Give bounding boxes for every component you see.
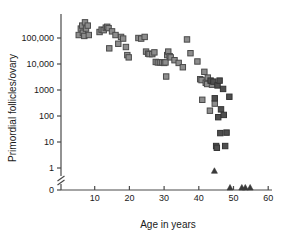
data-point-square xyxy=(188,51,193,56)
chart-figure: 100,00010,00010001001010 102030405060 Pr… xyxy=(0,0,285,233)
data-point-square xyxy=(123,44,128,49)
data-point-square xyxy=(216,114,221,119)
y-tick-label: 1 xyxy=(49,163,54,173)
x-tick-label: 20 xyxy=(124,193,134,203)
data-point-square xyxy=(113,32,118,37)
y-tick-label: 10 xyxy=(44,137,54,147)
data-point-square xyxy=(214,145,219,150)
x-tick-label: 50 xyxy=(228,193,238,203)
data-point-square xyxy=(220,86,225,91)
x-tick-label: 40 xyxy=(194,193,204,203)
data-point-square xyxy=(202,69,207,74)
data-point-square xyxy=(180,65,185,70)
data-point-square xyxy=(152,50,157,55)
data-point-square xyxy=(184,37,189,42)
data-point-square xyxy=(163,60,168,65)
data-point-square xyxy=(86,32,91,37)
data-point-square xyxy=(126,55,131,60)
data-point-square xyxy=(218,130,223,135)
data-point-square xyxy=(195,59,200,64)
y-tick-label: 0 xyxy=(49,185,54,195)
x-axis-title: Age in years xyxy=(140,219,196,230)
y-axis-title: Primordial follicles/ovary xyxy=(7,54,18,162)
y-tick-label: 1000 xyxy=(34,85,54,95)
x-tick-label: 60 xyxy=(263,193,273,203)
x-tick-label: 30 xyxy=(159,193,169,203)
y-tick-label: 100 xyxy=(39,111,54,121)
y-tick-label: 100,000 xyxy=(21,33,54,43)
data-point-square xyxy=(207,108,212,113)
data-point-square xyxy=(142,34,147,39)
data-point-square xyxy=(163,74,168,79)
data-point-square xyxy=(217,78,222,83)
data-point-square xyxy=(200,97,205,102)
data-point-square xyxy=(222,143,227,148)
data-point-square xyxy=(221,112,226,117)
data-point-square xyxy=(107,46,112,51)
data-point-square xyxy=(116,41,121,46)
data-point-square xyxy=(85,23,90,28)
scatter-plot: 100,00010,00010001001010 102030405060 Pr… xyxy=(0,0,285,233)
data-point-square xyxy=(212,96,217,101)
x-tick-label: 10 xyxy=(90,193,100,203)
data-point-square xyxy=(212,101,217,106)
data-point-square xyxy=(224,130,229,135)
data-point-square xyxy=(218,107,223,112)
data-point-square xyxy=(120,36,125,41)
y-tick-label: 10,000 xyxy=(26,59,54,69)
data-point-square xyxy=(227,94,232,99)
